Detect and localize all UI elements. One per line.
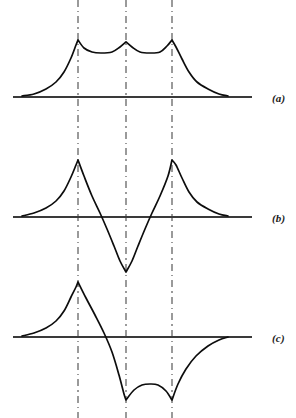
curve-b: [22, 160, 228, 272]
curve-c: [22, 282, 228, 400]
guide-lines-group: [78, 0, 172, 418]
panel-label-a: (a): [272, 92, 285, 104]
figure-plot-area: [0, 0, 296, 418]
panel-label-c: (c): [272, 332, 285, 344]
figure-container: (a) (b) (c): [0, 0, 296, 418]
panel-label-b: (b): [272, 212, 285, 224]
curve-a: [22, 40, 228, 96]
axes-group: [13, 97, 252, 337]
curves-group: [22, 40, 228, 400]
